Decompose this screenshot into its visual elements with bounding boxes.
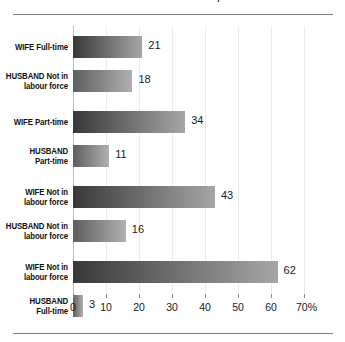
bar bbox=[73, 261, 278, 283]
category-label-line: WIFE Not in bbox=[0, 187, 68, 197]
category-label: HUSBAND Not inlabour force bbox=[0, 71, 68, 91]
plot-area: 211834114316623 bbox=[73, 26, 304, 294]
bar-value-label: 21 bbox=[148, 39, 160, 51]
bar-row: 11 bbox=[73, 145, 304, 167]
category-label: HUSBAND Not inlabour force bbox=[0, 221, 68, 241]
gridline bbox=[304, 26, 305, 294]
x-tick-mark bbox=[205, 294, 206, 298]
bar-value-label: 18 bbox=[138, 73, 150, 85]
x-tick-label: 30 bbox=[166, 301, 178, 313]
category-label-line: HUSBAND bbox=[0, 296, 68, 306]
category-label-line: labour force bbox=[0, 81, 68, 91]
bar bbox=[73, 220, 126, 242]
x-tick-mark bbox=[271, 294, 272, 298]
bar bbox=[73, 186, 215, 208]
x-tick-label: 0 bbox=[70, 301, 76, 313]
category-label: HUSBANDPart-time bbox=[0, 146, 68, 166]
category-label: HUSBANDFull-time bbox=[0, 296, 68, 316]
category-label: WIFE Not inlabour force bbox=[0, 262, 68, 282]
bar-row: 21 bbox=[73, 36, 304, 58]
x-tick-mark bbox=[238, 294, 239, 298]
bar-value-label: 34 bbox=[191, 114, 203, 126]
x-tick-mark bbox=[106, 294, 107, 298]
bottom-rule bbox=[13, 333, 333, 334]
x-tick-label: 60 bbox=[265, 301, 277, 313]
x-tick-label: 50 bbox=[232, 301, 244, 313]
bar-row: 16 bbox=[73, 220, 304, 242]
top-rule bbox=[13, 14, 333, 15]
x-axis: 010203040506070% bbox=[73, 294, 304, 320]
category-label-line: labour force bbox=[0, 197, 68, 207]
bar bbox=[73, 70, 132, 92]
bar-row: 34 bbox=[73, 111, 304, 133]
category-label-line: HUSBAND bbox=[0, 146, 68, 156]
chart-figure: Labour Force Status, 1996 21183411431662… bbox=[0, 0, 345, 342]
x-tick-label: 20 bbox=[133, 301, 145, 313]
category-label-line: WIFE Part-time bbox=[0, 117, 68, 127]
category-label: WIFE Part-time bbox=[0, 117, 68, 127]
category-label: WIFE Full-time bbox=[0, 42, 68, 52]
x-tick-mark bbox=[73, 294, 74, 298]
chart-title: Labour Force Status, 1996 bbox=[0, 0, 345, 3]
category-label-line: Part-time bbox=[0, 156, 68, 166]
bar bbox=[73, 145, 109, 167]
bar bbox=[73, 36, 142, 58]
x-tick-mark bbox=[304, 294, 305, 298]
category-label-line: Full-time bbox=[0, 306, 68, 316]
x-tick-mark bbox=[139, 294, 140, 298]
category-label-line: WIFE Full-time bbox=[0, 42, 68, 52]
bar-row: 43 bbox=[73, 186, 304, 208]
x-tick-label: 70% bbox=[296, 301, 317, 313]
category-label-line: WIFE Not in bbox=[0, 262, 68, 272]
bar-value-label: 16 bbox=[132, 223, 144, 235]
bar-value-label: 11 bbox=[115, 148, 126, 160]
category-label-line: HUSBAND Not in bbox=[0, 71, 68, 81]
x-tick-label: 40 bbox=[199, 301, 211, 313]
category-label-line: labour force bbox=[0, 272, 68, 282]
category-label-line: HUSBAND Not in bbox=[0, 221, 68, 231]
bar-value-label: 43 bbox=[221, 189, 233, 201]
bar-row: 18 bbox=[73, 70, 304, 92]
bar bbox=[73, 111, 185, 133]
bar-row: 62 bbox=[73, 261, 304, 283]
x-tick-label: 10 bbox=[100, 301, 112, 313]
category-label-line: labour force bbox=[0, 231, 68, 241]
category-label: WIFE Not inlabour force bbox=[0, 187, 68, 207]
x-tick-mark bbox=[172, 294, 173, 298]
bar-value-label: 62 bbox=[284, 264, 296, 276]
